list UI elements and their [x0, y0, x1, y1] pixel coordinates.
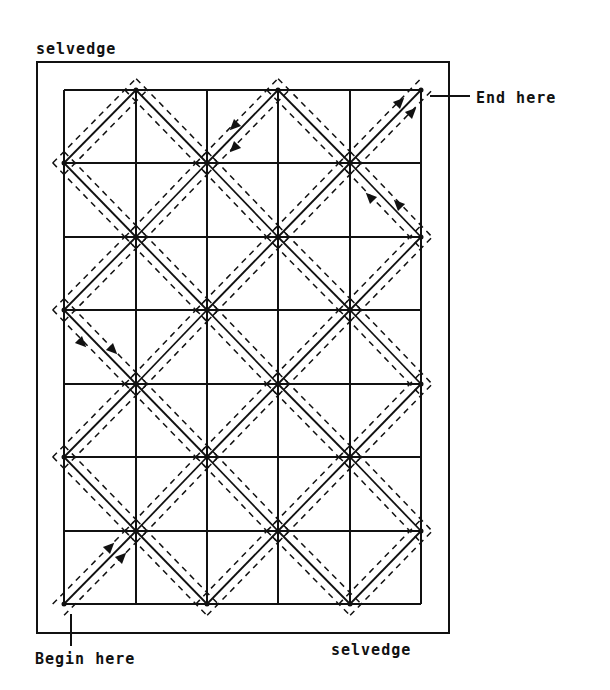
seam-allowance-dashed-line — [125, 531, 207, 615]
seam-allowance-dashed-line — [278, 457, 361, 542]
seam-allowance-dashed-line — [53, 520, 136, 604]
seam-allowance-dashed-line — [196, 457, 278, 543]
seam-allowance-dashed-line — [350, 299, 432, 385]
intersection-dot — [276, 88, 281, 93]
cutting-line — [207, 384, 278, 457]
cutting-line — [278, 163, 350, 237]
cutting-line — [64, 457, 136, 531]
seam-allowance-dashed-line — [136, 373, 218, 457]
cutting-line — [64, 163, 136, 237]
cutting-line — [207, 163, 278, 237]
cutting-line — [136, 384, 207, 457]
seam-allowance-dashed-line — [125, 237, 207, 321]
intersection-dot — [134, 88, 139, 93]
seam-allowance-dashed-line — [207, 384, 289, 468]
seam-allowance-dashed-line — [136, 310, 218, 396]
cutting-line — [207, 90, 278, 163]
seam-allowance-dashed-line — [196, 310, 278, 396]
direction-arrow-icon — [75, 336, 90, 351]
intersection-dot — [134, 235, 139, 240]
cutting-line — [207, 531, 278, 604]
seam-allowance-dashed-line — [136, 226, 218, 310]
intersection-dot — [134, 382, 139, 387]
seam-allowance-dashed-line — [278, 520, 361, 604]
intersection-dot — [205, 455, 210, 460]
seam-allowance-dashed-line — [207, 531, 289, 615]
cutting-line — [350, 163, 421, 237]
cutting-line — [278, 237, 350, 310]
seam-allowance-dashed-line — [278, 310, 361, 395]
seam-allowance-dashed-line — [64, 237, 147, 321]
cutting-line — [64, 237, 136, 310]
intersection-dot — [419, 88, 424, 93]
bias-strip-diagram: selvedge End here Begin here selvedge — [0, 0, 610, 690]
seam-allowance-dashed-line — [350, 531, 432, 615]
cutting-line — [207, 310, 278, 384]
seam-allowance-dashed-line — [278, 373, 361, 457]
seam-allowance-dashed-line — [196, 79, 278, 163]
seam-allowance-dashed-line — [64, 531, 147, 615]
seam-allowance-dashed-line — [339, 310, 421, 396]
cutting-line — [136, 237, 207, 310]
intersection-dot — [348, 161, 353, 166]
seam-allowance-dashed-line — [350, 237, 432, 321]
cutting-line — [278, 531, 350, 604]
seam-allowance-dashed-line — [207, 299, 289, 385]
seam-allowance-dashed-line — [53, 79, 136, 163]
seam-allowance-dashed-line — [339, 79, 421, 163]
cutting-line — [136, 163, 207, 237]
seam-allowance-dashed-line — [350, 446, 432, 532]
seam-allowance-dashed-line — [64, 90, 147, 174]
direction-arrow-icon — [362, 189, 377, 204]
intersection-dot — [419, 529, 424, 534]
seam-allowance-dashed-line — [196, 520, 278, 604]
seam-allowance-dashed-line — [339, 457, 421, 543]
seam-allowance-dashed-line — [64, 384, 147, 468]
seam-allowance-dashed-line — [267, 531, 350, 615]
intersection-dot — [205, 602, 210, 607]
seam-allowance-dashed-line — [339, 520, 421, 604]
seam-allowance-dashed-line — [207, 237, 289, 321]
seam-allowance-dashed-line — [278, 226, 361, 310]
cutting-line — [136, 310, 207, 384]
direction-arrow-icon — [226, 119, 241, 134]
intersection-dot — [62, 308, 67, 313]
direction-arrow-icon — [405, 104, 420, 119]
cutting-line — [350, 531, 421, 604]
seam-allowance-dashed-line — [278, 163, 361, 248]
intersection-dot — [205, 161, 210, 166]
seam-allowance-dashed-line — [350, 384, 432, 468]
seam-allowance-dashed-line — [278, 79, 361, 163]
intersection-dot — [62, 455, 67, 460]
intersection-dot — [348, 308, 353, 313]
cutting-line — [278, 384, 350, 457]
seam-allowance-dashed-line — [136, 79, 218, 163]
seam-allowance-dashed-line — [64, 152, 147, 237]
seam-allowance-dashed-line — [339, 373, 421, 457]
intersection-dot — [276, 235, 281, 240]
seam-allowance-dashed-line — [136, 520, 218, 604]
cutting-line — [207, 457, 278, 531]
direction-arrow-icon — [390, 196, 405, 211]
intersection-dot — [205, 308, 210, 313]
seam-allowance-dashed-line — [207, 152, 289, 238]
seam-allowance-dashed-line — [125, 446, 207, 532]
cutting-line — [350, 457, 421, 531]
intersection-dot — [134, 529, 139, 534]
cutting-line — [136, 457, 207, 531]
intersection-dot — [348, 455, 353, 460]
seam-allowance-dashed-line — [125, 152, 207, 238]
seam-allowance-dashed-line — [267, 446, 350, 531]
cutting-line — [207, 237, 278, 310]
cutting-diagram-svg — [0, 0, 610, 690]
seam-allowance-dashed-line — [53, 457, 136, 542]
seam-allowance-dashed-line — [53, 373, 136, 457]
intersection-dot — [62, 602, 67, 607]
cutting-line — [350, 90, 421, 163]
seam-allowance-dashed-line — [267, 384, 350, 468]
seam-allowance-dashed-line — [196, 163, 278, 249]
intersection-dot — [419, 382, 424, 387]
intersection-dot — [62, 161, 67, 166]
seam-allowance-dashed-line — [207, 90, 289, 174]
intersection-dot — [348, 602, 353, 607]
